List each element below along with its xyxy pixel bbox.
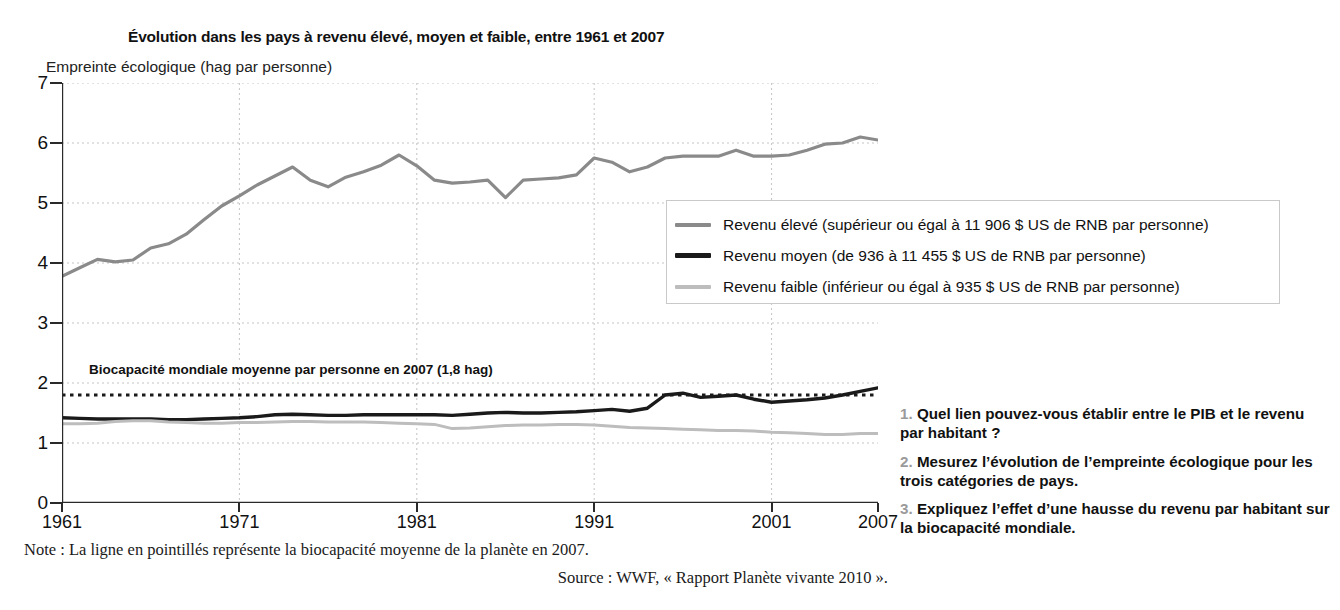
y-tick-label: 4 [22,252,48,274]
questions-panel: 1. Quel lien pouvez-vous établir entre l… [900,404,1340,610]
y-axis-tick-labels: 01234567 [0,83,48,503]
legend-item-low-income: Revenu faible (inférieur ou égal à 935 $… [675,271,1269,302]
x-tick-label: 1971 [219,512,259,533]
y-axis-title: Empreinte écologique (hag par personne) [46,58,332,76]
legend-label-low-income: Revenu faible (inférieur ou égal à 935 $… [723,278,1180,296]
x-tick-mark [877,503,879,512]
x-tick-label: 2007 [858,512,898,533]
x-tick-mark [593,503,595,512]
question-1-number: 1. [900,405,913,422]
legend-item-high-income: Revenu élevé (supérieur ou égal à 11 906… [675,209,1269,240]
y-tick-label: 5 [22,192,48,214]
question-1: 1. Quel lien pouvez-vous établir entre l… [900,404,1332,443]
series-line-middle-income [62,388,878,420]
chart-figure: Évolution dans les pays à revenu élevé, … [0,0,900,610]
x-tick-mark [416,503,418,512]
x-tick-label: 1991 [574,512,614,533]
y-tick-mark [50,82,62,84]
x-tick-mark [238,503,240,512]
y-tick-label: 2 [22,372,48,394]
legend-label-middle-income: Revenu moyen (de 936 à 11 455 $ US de RN… [723,247,1146,265]
question-2-number: 2. [900,453,913,470]
biocapacity-annotation-label: Biocapacité mondiale moyenne par personn… [86,362,496,377]
worksheet-page: Évolution dans les pays à revenu élevé, … [0,0,1340,610]
series-line-low-income [62,421,878,435]
legend-swatch-middle-income [675,253,711,258]
question-3: 3. Expliquez l’effet d’une hausse du rev… [900,499,1332,538]
y-tick-mark [50,382,62,384]
legend-swatch-high-income [675,223,711,227]
chart-note: Note : La ligne en pointillés représente… [24,540,589,560]
x-tick-label: 2001 [752,512,792,533]
y-tick-mark [50,322,62,324]
question-1-text: Quel lien pouvez-vous établir entre le P… [900,405,1304,441]
legend-label-high-income: Revenu élevé (supérieur ou égal à 11 906… [723,216,1209,234]
legend-swatch-low-income [675,285,711,289]
x-tick-mark [61,503,63,512]
x-axis-tick-labels: 196119711981199120012007 [62,512,878,538]
legend-item-middle-income: Revenu moyen (de 936 à 11 455 $ US de RN… [675,240,1269,271]
x-tick-mark [771,503,773,512]
y-tick-mark [50,142,62,144]
y-tick-label: 0 [22,492,48,514]
question-3-text: Expliquez l’effet d’une hausse du revenu… [900,500,1330,536]
chart-title: Évolution dans les pays à revenu élevé, … [128,28,664,46]
chart-source: Source : WWF, « Rapport Planète vivante … [558,568,888,588]
y-tick-label: 6 [22,132,48,154]
x-tick-label: 1981 [397,512,437,533]
x-tick-label: 1961 [42,512,82,533]
y-tick-mark [50,442,62,444]
y-tick-label: 1 [22,432,48,454]
y-tick-mark [50,202,62,204]
y-tick-label: 7 [22,72,48,94]
chart-legend: Revenu élevé (supérieur ou égal à 11 906… [666,200,1280,304]
question-2-text: Mesurez l’évolution de l’empreinte écolo… [900,453,1313,489]
question-3-number: 3. [900,500,913,517]
y-tick-label: 3 [22,312,48,334]
y-tick-mark [50,262,62,264]
question-2: 2. Mesurez l’évolution de l’empreinte éc… [900,452,1332,491]
